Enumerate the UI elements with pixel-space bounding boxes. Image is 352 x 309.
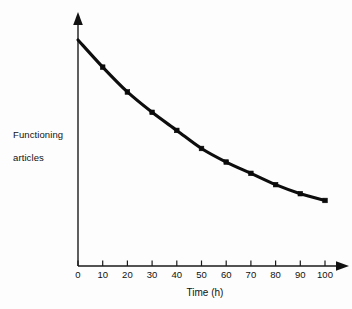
data-point-marker <box>224 160 229 165</box>
x-tick-label-40: 40 <box>172 269 183 280</box>
x-tick-label-0: 0 <box>75 269 80 280</box>
x-tick-label-90: 90 <box>295 269 306 280</box>
data-series-curve <box>78 40 325 200</box>
data-point-marker <box>100 65 105 70</box>
x-axis-title: Time (h) <box>187 287 224 298</box>
y-axis-title-line2: articles <box>13 152 63 164</box>
x-tick-label-20: 20 <box>122 269 133 280</box>
y-axis-title-line1: Functioning <box>13 129 63 141</box>
x-tick-label-100: 100 <box>317 269 333 280</box>
x-tick-label-50: 50 <box>196 269 207 280</box>
data-point-marker <box>273 182 278 187</box>
data-point-marker <box>150 110 155 115</box>
x-axis-ticks <box>78 261 325 267</box>
y-axis-arrowhead <box>73 12 83 25</box>
figure-container: 0 10 20 30 40 50 60 70 80 90 100 Time (h… <box>0 0 352 309</box>
x-axis-arrowhead <box>336 261 349 271</box>
data-point-marker <box>125 90 130 95</box>
x-axis-tick-labels: 0 10 20 30 40 50 60 70 80 90 100 <box>75 269 333 280</box>
y-axis-title: Functioning articles <box>13 117 63 175</box>
data-markers <box>100 65 327 203</box>
data-point-marker <box>175 128 180 133</box>
data-point-marker <box>199 146 204 151</box>
x-tick-label-80: 80 <box>270 269 281 280</box>
x-tick-label-70: 70 <box>246 269 257 280</box>
data-point-marker <box>323 198 328 203</box>
data-point-marker <box>298 191 303 196</box>
x-tick-label-60: 60 <box>221 269 232 280</box>
data-point-marker <box>249 171 254 176</box>
x-tick-label-10: 10 <box>97 269 108 280</box>
x-tick-label-30: 30 <box>147 269 158 280</box>
